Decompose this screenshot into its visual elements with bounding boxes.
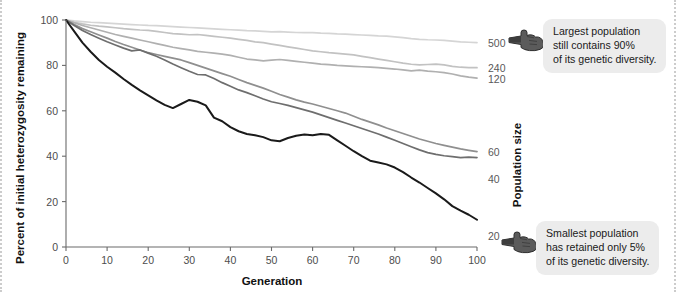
x-tick-label: 60 — [307, 254, 319, 266]
y-axis-title: Percent of initial heterozygosity remain… — [14, 32, 26, 264]
x-tick-label: 10 — [101, 254, 113, 266]
y-tick-label: 20 — [46, 196, 58, 208]
x-tick-label: 20 — [142, 254, 154, 266]
y-tick-label: 80 — [46, 59, 58, 71]
y-tick-label: 40 — [46, 150, 58, 162]
x-axis-title: Generation — [242, 275, 303, 287]
x-tick-label: 100 — [468, 254, 486, 266]
annotation-callout-largest: Largest population still contains 90% of… — [543, 19, 666, 73]
annotation-line: Largest population — [553, 25, 656, 39]
annotation-line: still contains 90% — [553, 39, 656, 53]
annotation-callout-smallest: Smallest population has retained only 5%… — [536, 221, 659, 275]
population-size-label-120: 120 — [488, 73, 506, 85]
annotation-line: of its genetic diversity. — [546, 255, 649, 269]
pointing-hand-icon — [500, 229, 540, 255]
y-tick-label: 100 — [40, 14, 58, 26]
population-size-label-40: 40 — [488, 173, 500, 185]
x-tick-label: 30 — [183, 254, 195, 266]
population-size-label-20: 20 — [488, 230, 500, 242]
annotation-line: has retained only 5% — [546, 241, 649, 255]
x-tick-label: 70 — [348, 254, 360, 266]
x-tick-label: 40 — [225, 254, 237, 266]
pointing-hand-icon — [507, 27, 547, 53]
x-tick-label: 50 — [266, 254, 278, 266]
population-size-label-240: 240 — [488, 62, 506, 74]
population-size-label-60: 60 — [488, 146, 500, 158]
chart-figure: 0102030405060708090100020406080100500240… — [0, 0, 676, 292]
y-tick-label: 0 — [52, 241, 58, 253]
x-tick-label: 90 — [430, 254, 442, 266]
x-tick-label: 0 — [63, 254, 69, 266]
y-tick-label: 60 — [46, 105, 58, 117]
population-size-label-500: 500 — [488, 37, 506, 49]
series-line-500 — [66, 20, 477, 43]
x-tick-label: 80 — [389, 254, 401, 266]
annotation-line: of its genetic diversity. — [553, 53, 656, 67]
right-axis-title: Population size — [511, 123, 523, 207]
annotation-line: Smallest population — [546, 227, 649, 241]
